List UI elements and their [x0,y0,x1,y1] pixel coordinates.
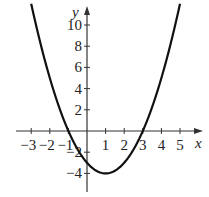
y-tick-label: 4 [75,81,83,97]
x-tick-label: 4 [158,137,166,153]
x-tick-label: 5 [176,137,184,153]
x-tick-label: 1 [102,137,110,153]
y-tick-label: 2 [75,102,83,118]
x-axis-arrow-icon [194,128,203,134]
x-tick-label: −2 [39,137,55,153]
x-tick-label: 3 [139,137,147,153]
y-tick-label: 8 [75,38,83,54]
x-axis-label: x [194,135,202,151]
y-tick-label: 6 [75,59,83,75]
y-axis-arrow-icon [84,6,90,15]
x-tick-label: 2 [120,137,128,153]
axes [16,6,203,192]
parabola-graph: −3−2−112345 108642−2−4 x y [0,0,209,197]
x-tick-label: −3 [20,137,36,153]
y-axis-label: y [70,4,79,20]
y-tick-label: −4 [66,165,82,181]
x-ticks: −3−2−112345 [20,128,184,153]
